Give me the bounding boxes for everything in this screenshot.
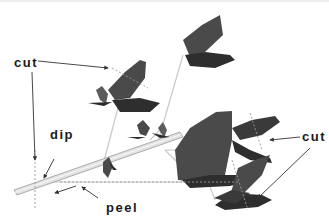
main-stem xyxy=(14,132,183,195)
leaf-large-right xyxy=(175,111,280,210)
plant-manipulation-diagram: cut dip peel cut xyxy=(0,0,329,222)
label-cut-left: cut xyxy=(14,56,38,69)
label-dip: dip xyxy=(50,128,74,141)
leaf-upper-left xyxy=(88,60,160,112)
label-peel: peel xyxy=(106,201,138,214)
leaf-top-right xyxy=(183,15,235,68)
plant-model-illustration xyxy=(0,0,329,222)
label-cut-right: cut xyxy=(302,130,326,143)
